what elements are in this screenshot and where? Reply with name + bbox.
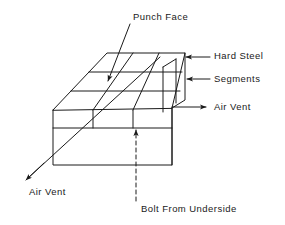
- air-vent-left-leader-arrow: [26, 163, 44, 180]
- diagram-canvas: Punch Face Hard Steel Segments Air Vent …: [0, 0, 285, 225]
- right-face-top-edge: [163, 59, 176, 67]
- label-air-vent-left: Air Vent: [29, 186, 66, 197]
- label-punch-face: Punch Face: [133, 11, 188, 22]
- box-right-face: [163, 53, 185, 165]
- label-hard-steel: Hard Steel: [214, 50, 263, 61]
- air-vent-diagonal-line: [27, 57, 160, 179]
- label-segments: Segments: [214, 73, 260, 84]
- box-top-face: [53, 53, 185, 110]
- label-bolt-from-underside: Bolt From Underside: [141, 203, 237, 214]
- box-front-face: [53, 108, 172, 165]
- label-air-vent-right: Air Vent: [214, 101, 251, 112]
